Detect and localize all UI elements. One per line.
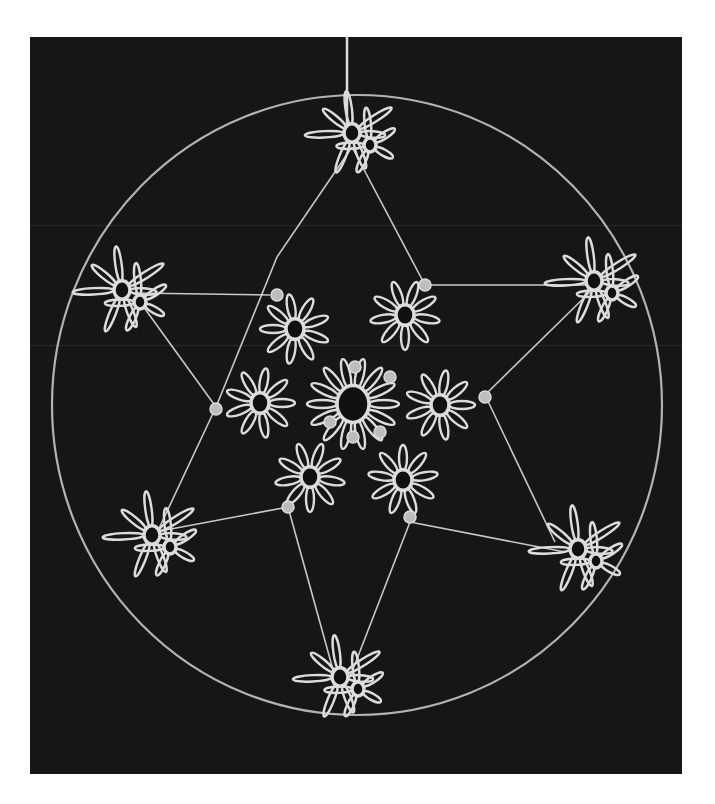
inner-flower-ring [396, 305, 414, 326]
picot-loop [133, 263, 143, 297]
connecting-thread [277, 147, 352, 257]
star-point-ring [144, 526, 160, 544]
picot-loop [127, 261, 165, 288]
star-point-sub-ring [606, 286, 618, 300]
picot-loop [113, 246, 124, 283]
picot-loop [120, 508, 148, 533]
picot-loop [605, 254, 615, 288]
star-point-sub-ring [352, 682, 364, 696]
picot-loop [310, 380, 341, 400]
picot-loop [293, 674, 332, 682]
picot-loop [345, 649, 381, 675]
connecting-thread [155, 507, 288, 532]
picot-loop [331, 635, 342, 670]
picot-loop [72, 287, 114, 295]
picot-loop [357, 105, 393, 131]
star-point-ring [114, 281, 130, 299]
picot-loop [143, 491, 154, 528]
thread-knot [419, 279, 431, 291]
picot-loop [399, 445, 407, 471]
thread-knot [384, 371, 396, 383]
star-point-sub-ring [590, 554, 602, 568]
thread-knot [324, 416, 336, 428]
picot-loop [449, 401, 475, 409]
inner-flower-ring [301, 467, 319, 488]
center-ring [337, 386, 369, 423]
picot-loop [102, 532, 144, 540]
inner-flower-ring [251, 393, 269, 414]
inner-flower-ring [431, 395, 449, 416]
star-point-ring [570, 540, 586, 558]
thread-knot [210, 403, 222, 415]
inner-flower-ring [286, 319, 304, 340]
picot-loop [307, 400, 337, 408]
picot-loop [163, 508, 173, 542]
picot-loop [569, 505, 580, 542]
thread-knot [271, 289, 283, 301]
picot-loop [562, 254, 590, 279]
picot-loop [583, 520, 621, 547]
star-point-sub-ring [364, 138, 376, 152]
thread-knot [479, 391, 491, 403]
star-point-ring [586, 272, 602, 290]
star-point-ring [344, 124, 360, 142]
picot-loop [544, 278, 586, 286]
picot-loop [546, 522, 574, 547]
picot-loop [366, 407, 397, 427]
thread-knot [404, 511, 416, 523]
picot-loop [306, 486, 314, 512]
picot-loop [305, 130, 344, 138]
picot-loop [528, 546, 570, 554]
star-point-sub-ring [134, 295, 146, 309]
picot-loop [269, 399, 295, 407]
picot-loop [369, 400, 399, 408]
thread-knot [374, 426, 386, 438]
thread-knot [347, 431, 359, 443]
connecting-thread [485, 292, 590, 395]
picot-loop [401, 324, 409, 350]
connecting-thread [140, 302, 216, 407]
picot-loop [321, 107, 348, 131]
picot-loop [309, 651, 336, 675]
picot-loop [260, 325, 286, 333]
thread-knot [282, 501, 294, 513]
thread-knot [349, 361, 361, 373]
tatted-star-ornament [30, 37, 682, 774]
picot-loop [90, 263, 118, 288]
picot-loop [363, 107, 373, 139]
lace-photograph [30, 37, 682, 774]
picot-loop [599, 252, 637, 279]
inner-flower-ring [394, 470, 412, 491]
star-point-ring [332, 668, 348, 686]
picot-loop [351, 651, 361, 683]
star-point-sub-ring [164, 540, 176, 554]
connecting-thread [485, 395, 555, 542]
picot-loop [585, 237, 596, 274]
picot-loop [589, 522, 599, 556]
